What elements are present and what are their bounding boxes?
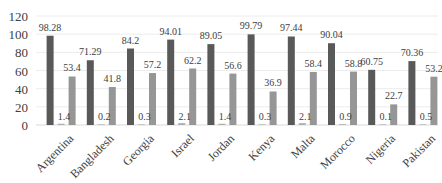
x-tick-label: Malta [288, 131, 318, 161]
data-label: 0.3 [259, 111, 272, 122]
y-tick-label: 40 [15, 82, 28, 97]
bar-1 [167, 40, 174, 125]
bar-1 [207, 44, 214, 125]
data-label: 0.2 [98, 111, 111, 122]
x-tick-label: Morocco [317, 131, 358, 172]
bar-2 [98, 124, 105, 125]
data-label: 94.01 [159, 26, 182, 37]
bar-1 [127, 49, 134, 125]
data-label: 57.2 [144, 59, 162, 70]
data-label: 0.3 [138, 111, 151, 122]
bar-1 [288, 36, 295, 125]
bar-1 [248, 34, 255, 125]
data-label: 90.04 [320, 29, 343, 40]
data-label: 97.44 [280, 22, 303, 33]
bar-2 [379, 124, 386, 125]
y-tick-label: 60 [15, 64, 28, 79]
data-label: 53.2 [425, 63, 442, 74]
bar-2 [259, 124, 266, 125]
bar-2 [419, 124, 426, 125]
bar-2 [138, 124, 145, 125]
data-label: 41.8 [104, 73, 122, 84]
x-axis: ArgentinaBangladeshGeorgiaIsraelJordanKe… [33, 131, 438, 181]
bar-2 [178, 123, 185, 125]
data-label: 71.29 [79, 46, 102, 57]
y-axis: 020406080100120 [9, 9, 29, 133]
data-label: 1.4 [219, 111, 232, 122]
bar-1 [47, 36, 54, 125]
x-tick-label: Jordan [205, 131, 238, 164]
x-tick-label: Nigeria [363, 131, 399, 167]
data-label: 0.9 [339, 111, 352, 122]
y-tick-label: 0 [22, 118, 29, 133]
data-label: 2.1 [299, 111, 312, 122]
data-label: 22.7 [385, 90, 403, 101]
bar-2 [218, 124, 225, 125]
bar-2 [299, 123, 306, 125]
data-label: 53.4 [63, 62, 81, 73]
x-tick-label: Bangladesh [67, 131, 116, 180]
data-label: 99.79 [240, 20, 263, 31]
data-label: 0.1 [379, 111, 392, 122]
data-label: 84.2 [122, 35, 140, 46]
x-tick-label: Kenya [245, 131, 278, 164]
data-label: 0.5 [420, 111, 433, 122]
data-label: 98.28 [39, 22, 62, 33]
bar-1 [368, 70, 375, 125]
data-label: 62.2 [184, 55, 202, 66]
data-label: 36.9 [264, 77, 282, 88]
bar-1 [87, 60, 94, 125]
data-label: 70.36 [401, 47, 424, 58]
bar-1 [328, 43, 335, 125]
x-tick-label: Israel [168, 131, 197, 160]
y-tick-label: 100 [9, 27, 29, 42]
data-label: 2.1 [178, 111, 191, 122]
bar-2 [58, 124, 65, 125]
x-tick-label: Georgia [120, 131, 158, 169]
data-label: 89.05 [200, 30, 223, 41]
y-tick-label: 120 [9, 9, 29, 24]
data-label: 1.4 [58, 111, 71, 122]
data-label: 56.6 [224, 60, 242, 71]
y-tick-label: 80 [15, 45, 28, 60]
bar-1 [408, 61, 415, 125]
bar-chart: 020406080100120 98.281.453.471.290.241.8… [0, 0, 442, 183]
data-label: 60.75 [360, 56, 383, 67]
bar-2 [339, 124, 346, 125]
y-tick-label: 20 [15, 100, 28, 115]
data-label: 58.4 [305, 58, 323, 69]
x-tick-label: Pakistan [400, 131, 439, 170]
